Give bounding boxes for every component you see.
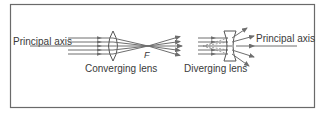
focus-label: F <box>144 50 150 60</box>
principal-axis-label-left: Principal axis <box>13 36 72 47</box>
diagram-frame <box>11 5 315 108</box>
principal-axis-label-right: Principal axis <box>256 33 315 44</box>
diverging-lens-label: Diverging lens <box>184 63 247 74</box>
lens-diagram: Principal axis F Converging lens <box>0 0 325 115</box>
converging-lens-label: Converging lens <box>85 63 157 74</box>
incoming-ray-arrows <box>97 36 102 55</box>
